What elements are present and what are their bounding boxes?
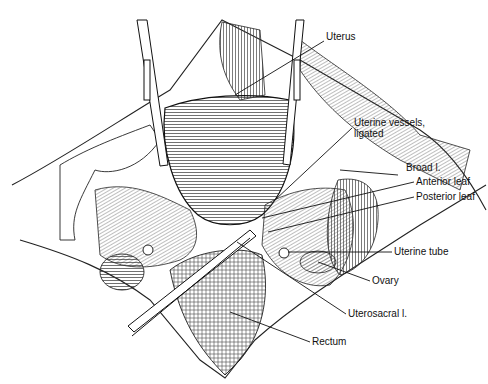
- label-anterior-leaf: Anterior leaf: [416, 176, 470, 187]
- label-uterus: Uterus: [326, 31, 355, 42]
- label-broad-ligament: Broad l.: [406, 162, 440, 173]
- right-tube-end: [279, 248, 289, 258]
- label-posterior-leaf: Posterior leaf: [416, 191, 475, 202]
- abdominal-wall-left-top: [220, 22, 265, 100]
- rectum: [170, 250, 266, 375]
- left-ovary: [100, 254, 144, 290]
- label-uterine-vessels-line2: ligated: [354, 128, 425, 139]
- label-uterine-tube: Uterine tube: [394, 246, 448, 257]
- label-uterosacral-ligament: Uterosacral l.: [348, 308, 407, 319]
- anatomy-illustration: [0, 0, 488, 384]
- abdominal-wall-right: [300, 40, 470, 190]
- label-ovary: Ovary: [372, 275, 399, 286]
- label-uterine-vessels: Uterine vessels, ligated: [354, 117, 425, 139]
- label-uterine-vessels-line1: Uterine vessels,: [354, 117, 425, 128]
- label-rectum: Rectum: [312, 336, 346, 347]
- left-tube-end: [143, 245, 153, 255]
